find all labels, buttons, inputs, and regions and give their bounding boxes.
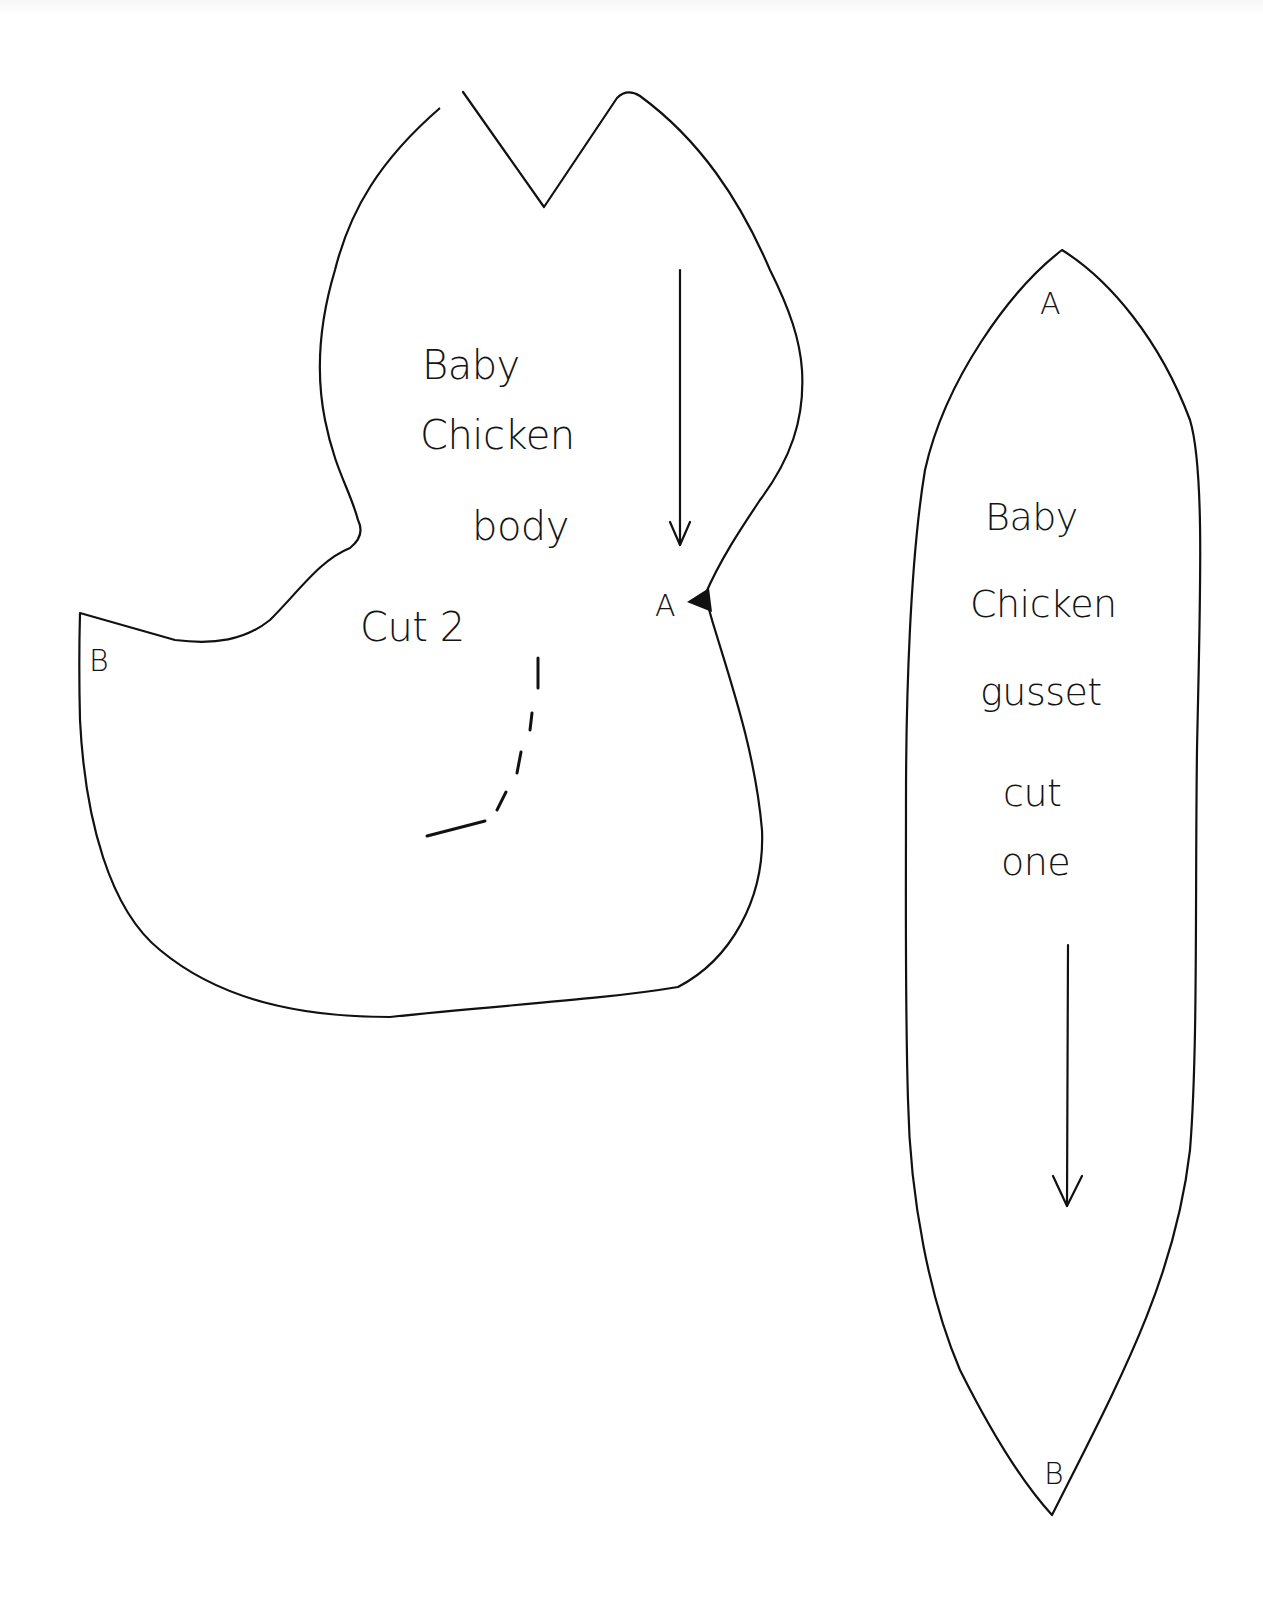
wing-placement-dashed-line — [427, 658, 538, 836]
gusset-mark-a: A — [1040, 286, 1060, 321]
body-title-line1: Baby — [422, 342, 520, 388]
gusset-title-line2: Chicken — [970, 582, 1117, 626]
gusset-grainline-arrow — [1053, 945, 1082, 1206]
body-title-line2: Chicken — [420, 412, 575, 458]
gusset-cut-instruction-line2: one — [1001, 840, 1070, 884]
body-piece-outline — [79, 92, 802, 1017]
body-cut-instruction: Cut 2 — [360, 604, 465, 650]
gusset-mark-b: B — [1044, 1456, 1063, 1491]
outline-gap — [440, 100, 452, 108]
gusset-cut-instruction-line1: cut — [1003, 771, 1061, 815]
pattern-sheet: Baby Chicken body Cut 2 A B A Baby Chick… — [0, 0, 1263, 1603]
body-mark-b: B — [89, 643, 108, 678]
body-title-line3: body — [472, 503, 569, 549]
notch-a-marker — [687, 588, 712, 612]
body-mark-a: A — [655, 588, 675, 623]
gusset-title-line3: gusset — [980, 670, 1102, 714]
pattern-drawing — [0, 0, 1263, 1603]
body-grainline-arrow — [670, 270, 690, 545]
gusset-title-line1: Baby — [985, 495, 1078, 539]
